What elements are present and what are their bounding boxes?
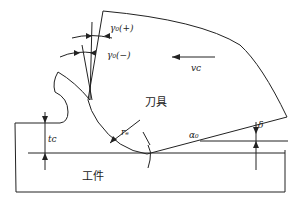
workpiece-label: 工件	[82, 171, 104, 182]
rake-angle-positive-label: γ₀(+)	[110, 24, 134, 33]
cutting-speed-label: vᴄ	[191, 64, 201, 73]
clearance-angle-label: α₀	[189, 131, 199, 140]
chip	[54, 72, 90, 123]
chip-thickness-label: tᴄ	[48, 135, 57, 144]
tool-label: 刀具	[145, 97, 167, 108]
rake-angle-negative-label: γ₀(−)	[107, 51, 131, 60]
delta-label: δ	[258, 121, 263, 130]
nose-radius-label: rₑ	[121, 128, 129, 137]
cutting-diagram: γ₀(+) γ₀(−) vᴄ 刀具 工件 tᴄ rₑ α₀ δ	[0, 0, 297, 201]
